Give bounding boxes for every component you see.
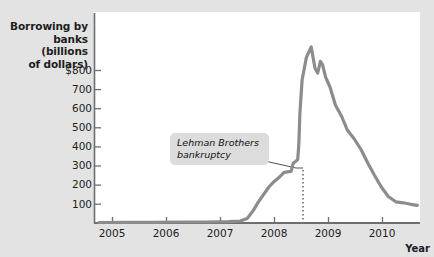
- annotation-lehman-brothers: Lehman Brothers bankruptcy: [170, 133, 269, 165]
- annotation-line1: Lehman Brothers: [177, 137, 263, 149]
- y-tick-label-700: 700: [36, 84, 92, 94]
- y-tick-label-400: 400: [36, 141, 92, 151]
- x-axis-title: Year: [405, 243, 430, 254]
- y-axis-title-line2: banks (billions: [4, 33, 88, 58]
- y-axis-title: Borrowing by banks (billions of dollars): [4, 20, 88, 70]
- x-tick-label-2008: 2008: [252, 228, 296, 239]
- x-tick-label-2010: 2010: [360, 228, 404, 239]
- annotation-line2: bankruptcy: [177, 149, 263, 161]
- chart-figure: Borrowing by banks (billions of dollars)…: [0, 0, 434, 257]
- y-tick-label-300: 300: [36, 160, 92, 170]
- y-tick-marks: [95, 71, 101, 205]
- x-tick-label-2006: 2006: [144, 228, 188, 239]
- y-tick-label-200: 200: [36, 179, 92, 189]
- y-tick-label-500: 500: [36, 122, 92, 132]
- x-tick-label-2005: 2005: [90, 228, 134, 239]
- y-tick-label-600: 600: [36, 103, 92, 113]
- y-tick-label-800: $800: [36, 65, 92, 75]
- y-axis-title-line1: Borrowing by: [4, 20, 88, 33]
- x-tick-label-2009: 2009: [306, 228, 350, 239]
- y-tick-label-100: 100: [36, 199, 92, 209]
- x-tick-label-2007: 2007: [198, 228, 242, 239]
